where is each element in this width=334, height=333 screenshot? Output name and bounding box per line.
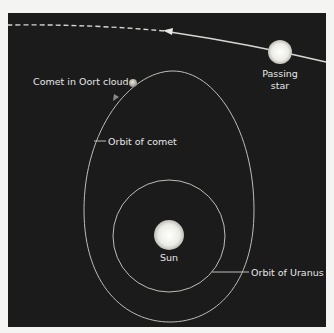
comet-label: Comet in Oort cloud bbox=[33, 76, 129, 87]
orbit-uranus-label: Orbit of Uranus bbox=[251, 267, 324, 278]
sun-label: Sun bbox=[160, 252, 178, 263]
sun bbox=[154, 220, 184, 250]
passing-star-label-line2: star bbox=[271, 80, 289, 91]
comet bbox=[129, 79, 137, 87]
passing-star-label-line1: Passing bbox=[262, 68, 298, 79]
passing-star bbox=[268, 40, 292, 64]
orbit-comet-label: Orbit of comet bbox=[108, 136, 177, 147]
diagram-canvas: Passing star Comet in Oort cloud Orbit o… bbox=[0, 0, 334, 333]
